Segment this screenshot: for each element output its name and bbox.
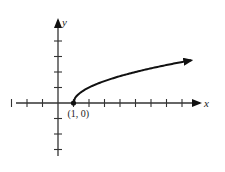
axes xyxy=(16,20,200,156)
x-axis-label: x xyxy=(203,97,209,109)
curve-layer xyxy=(71,60,191,105)
start-point-marker xyxy=(71,100,76,105)
function-graph: x y (1, 0) xyxy=(0,0,225,172)
point-label: (1, 0) xyxy=(68,108,90,120)
ticks xyxy=(12,41,183,150)
curve-sqrt xyxy=(74,60,192,103)
y-axis-label: y xyxy=(61,16,67,28)
